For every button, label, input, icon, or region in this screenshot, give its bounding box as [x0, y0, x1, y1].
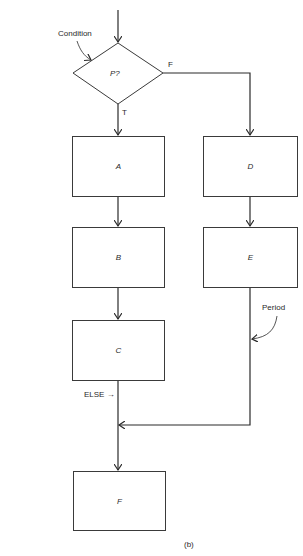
figure-caption: (b) — [184, 541, 194, 549]
box-label: D — [248, 162, 254, 171]
box-label: F — [117, 497, 122, 506]
process-box-b: B — [72, 227, 165, 288]
box-label: E — [248, 253, 253, 262]
process-box-f: F — [73, 471, 166, 531]
process-box-a: A — [72, 136, 165, 197]
else-annotation: ELSE → — [84, 391, 115, 399]
condition-annotation: Condition — [58, 30, 92, 38]
box-label: A — [116, 162, 121, 171]
period-annotation: Period — [262, 304, 285, 312]
process-box-d: D — [203, 136, 298, 197]
false-branch-label: F — [168, 61, 173, 69]
decision-label: P? — [110, 70, 120, 78]
box-label: C — [116, 346, 122, 355]
process-box-e: E — [203, 227, 298, 288]
process-box-c: C — [72, 320, 165, 381]
true-branch-label: T — [122, 109, 127, 117]
box-label: B — [116, 253, 121, 262]
